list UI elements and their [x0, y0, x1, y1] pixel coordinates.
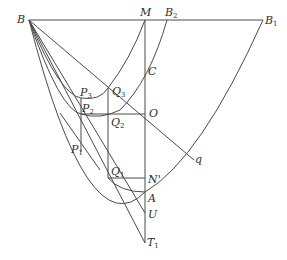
tangent-P1: [60, 113, 100, 170]
label-B1: B1: [264, 14, 278, 28]
tangent-Q1-U: [29, 20, 145, 213]
label-B: B: [16, 13, 25, 26]
parabola-B-B2: [29, 20, 167, 116]
curve-Q1-A: [108, 178, 145, 192]
label-Q3: Q3: [112, 85, 126, 99]
label-U: U: [148, 208, 158, 221]
label-T1: T1: [147, 236, 159, 250]
label-Q1: Q1: [111, 165, 125, 179]
label-A: A: [147, 192, 156, 205]
label-B2: B2: [164, 6, 178, 20]
geometry-diagram: B M B2 B1 C Q3 P3 P2 Q2 O P1 Q1 N' q A U…: [0, 0, 287, 260]
label-P2: P2: [81, 102, 94, 116]
label-M: M: [139, 6, 152, 19]
label-P3: P3: [79, 86, 92, 100]
parabola-main: [29, 20, 263, 204]
label-q: q: [195, 153, 202, 166]
label-C: C: [148, 65, 157, 78]
tangent-B-T1: [29, 20, 145, 243]
label-Nprime: N': [147, 173, 161, 186]
label-O: O: [149, 107, 158, 120]
label-Q2: Q2: [111, 116, 125, 130]
